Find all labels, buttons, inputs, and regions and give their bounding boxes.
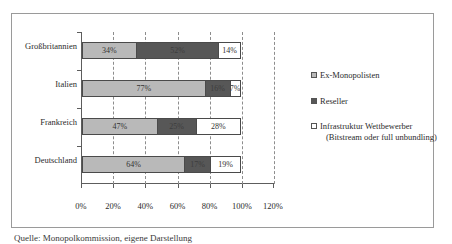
bar-row-deutschland: 64% 17% 19% [82, 156, 241, 173]
bar-value-label: 25% [169, 123, 184, 131]
legend-label: Ex-Monopolisten [320, 70, 380, 81]
chart-caption: Quelle: Monopolkommission, eigene Darste… [14, 234, 192, 244]
legend-swatch-icon [311, 72, 317, 78]
x-tick-label-100: 100% [232, 202, 252, 211]
x-axis-tick-labels: 0% 20% 40% 60% 80% 100% 120% [81, 202, 274, 214]
legend-label: Reseller [320, 96, 348, 107]
chart-legend: Ex-Monopolisten Reseller Infrastruktur W… [311, 70, 439, 158]
x-tick-label-20: 20% [105, 202, 121, 211]
bar-segment-ex-monopolisten: 47% [82, 118, 158, 135]
bar-segment-infrastruktur: 14% [218, 42, 241, 59]
bar-segment-ex-monopolisten: 77% [82, 80, 206, 97]
bar-segment-infrastruktur: 7% [230, 80, 241, 97]
legend-label-group: Infrastruktur Wettbewerber (Bitstream od… [320, 121, 437, 142]
legend-swatch-icon [311, 123, 317, 129]
y-tick-2 [77, 108, 81, 109]
bar-row-italien: 77% 16% 7% [82, 80, 241, 97]
x-tick-label-60: 60% [170, 202, 186, 211]
x-tick-0 [81, 184, 82, 188]
bar-value-label: 19% [218, 161, 233, 169]
bar-segment-infrastruktur: 28% [196, 118, 241, 135]
plot-area: 34% 52% 14% 77% 16% 7% 47% 25% 28% 64% 1… [81, 32, 274, 195]
chart-page: Großbritannien Italien Frankreich Deutsc… [0, 0, 452, 244]
bar-value-label: 16% [210, 85, 225, 93]
legend-label: Infrastruktur Wettbewerber [320, 121, 412, 131]
x-tick-label-0: 0% [75, 202, 86, 211]
x-tick-label-120: 120% [263, 202, 283, 211]
bar-value-label: 64% [126, 161, 141, 169]
gridline-100 [242, 32, 243, 184]
x-tick-60 [178, 184, 179, 188]
x-tick-20 [113, 184, 114, 188]
bar-value-label: 77% [137, 85, 152, 93]
bar-segment-reseller: 52% [136, 42, 220, 59]
y-tick-3 [77, 146, 81, 147]
bar-row-grossbritannien: 34% 52% 14% [82, 42, 241, 59]
legend-item-ex-monopolisten: Ex-Monopolisten [311, 70, 439, 81]
x-tick-label-80: 80% [202, 202, 218, 211]
bar-segment-reseller: 17% [184, 156, 211, 173]
legend-item-infrastruktur-wettbewerber: Infrastruktur Wettbewerber (Bitstream od… [311, 121, 439, 142]
x-tick-100 [242, 184, 243, 188]
bar-value-label: 7% [230, 85, 241, 93]
bar-segment-ex-monopolisten: 64% [82, 156, 185, 173]
chart-frame: Großbritannien Italien Frankreich Deutsc… [11, 13, 434, 228]
bar-segment-ex-monopolisten: 34% [82, 42, 137, 59]
bar-value-label: 14% [222, 47, 237, 55]
y-tick-0 [77, 32, 81, 33]
legend-label-sub: (Bitstream oder full unbundling) [320, 132, 437, 143]
y-axis-category-labels: Großbritannien Italien Frankreich Deutsc… [12, 32, 77, 195]
category-label-0: Großbritannien [13, 42, 77, 51]
bar-value-label: 47% [112, 123, 127, 131]
category-label-1: Italien [13, 80, 77, 89]
bar-segment-reseller: 16% [205, 80, 231, 97]
bar-value-label: 52% [170, 47, 185, 55]
bar-segment-infrastruktur: 19% [210, 156, 241, 173]
bar-value-label: 34% [102, 47, 117, 55]
category-label-2: Frankreich [13, 118, 77, 127]
x-tick-80 [210, 184, 211, 188]
bar-segment-reseller: 25% [157, 118, 197, 135]
bar-value-label: 28% [211, 123, 226, 131]
legend-swatch-icon [311, 98, 317, 104]
gridline-120 [274, 32, 275, 184]
y-tick-1 [77, 70, 81, 71]
x-tick-120 [273, 184, 274, 188]
category-label-3: Deutschland [13, 156, 77, 165]
x-tick-40 [145, 184, 146, 188]
legend-item-reseller: Reseller [311, 96, 439, 107]
bar-value-label: 17% [190, 161, 205, 169]
bar-row-frankreich: 47% 25% 28% [82, 118, 241, 135]
x-tick-label-40: 40% [138, 202, 154, 211]
